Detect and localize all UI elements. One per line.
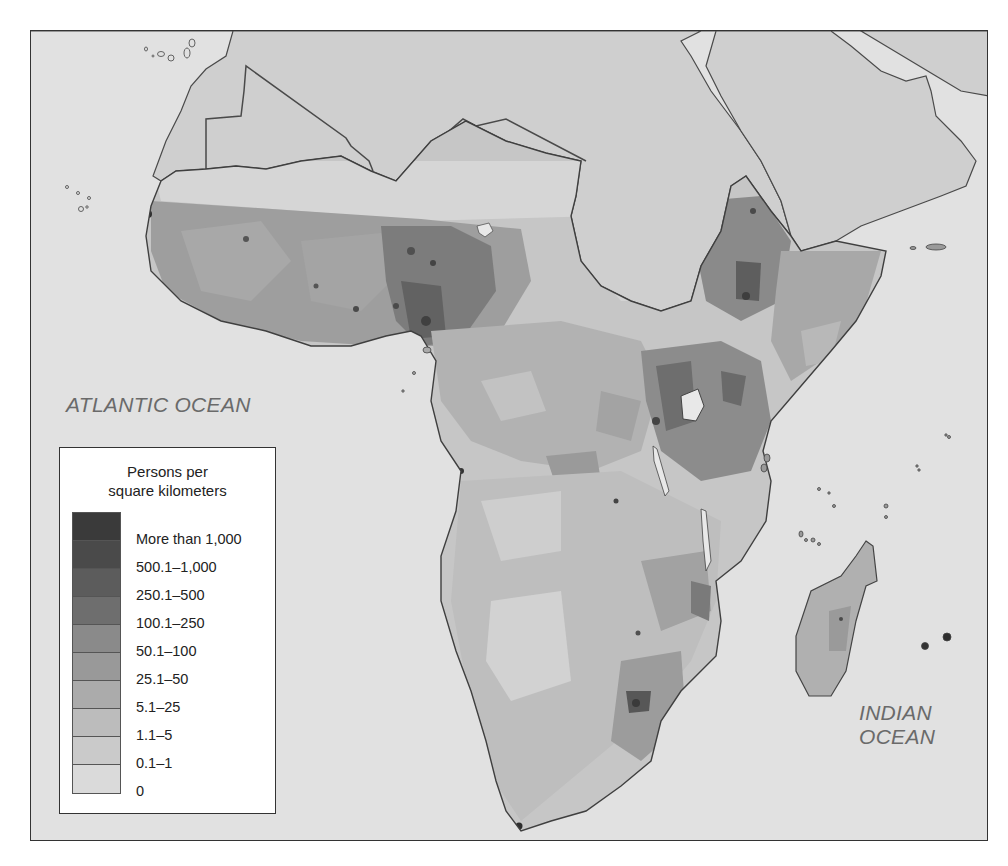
legend-swatch <box>73 569 120 597</box>
legend-swatches <box>72 512 121 794</box>
legend-swatch <box>73 681 120 709</box>
legend-swatch <box>73 653 120 681</box>
legend-swatch <box>73 597 120 625</box>
legend-label: 500.1–1,000 <box>136 553 242 581</box>
legend-label: 100.1–250 <box>136 609 242 637</box>
legend-label: More than 1,000 <box>136 525 242 553</box>
legend-swatch <box>73 765 120 793</box>
legend-title: Persons per square kilometers <box>60 462 275 500</box>
legend-label: 250.1–500 <box>136 581 242 609</box>
legend-label: 25.1–50 <box>136 665 242 693</box>
legend-labels: More than 1,000 500.1–1,000 250.1–500 10… <box>136 525 242 805</box>
legend-swatch <box>73 737 120 765</box>
legend-title-line2: square kilometers <box>60 481 275 500</box>
atlantic-ocean-label: ATLANTIC OCEAN <box>66 393 251 417</box>
legend: Persons per square kilometers More than … <box>59 447 276 814</box>
map-frame: ATLANTIC OCEAN INDIAN OCEAN Persons per … <box>30 30 988 841</box>
legend-swatch <box>73 709 120 737</box>
legend-swatch <box>73 513 120 541</box>
legend-title-line1: Persons per <box>60 462 275 481</box>
legend-label: 0 <box>136 777 242 805</box>
legend-label: 0.1–1 <box>136 749 242 777</box>
legend-swatch <box>73 541 120 569</box>
indian-ocean-label-line1: INDIAN <box>859 701 935 725</box>
legend-label: 5.1–25 <box>136 693 242 721</box>
antananarivo-dot <box>839 617 843 621</box>
legend-swatch <box>73 625 120 653</box>
legend-label: 1.1–5 <box>136 721 242 749</box>
indian-ocean-label: INDIAN OCEAN <box>859 701 935 749</box>
legend-label: 50.1–100 <box>136 637 242 665</box>
indian-ocean-label-line2: OCEAN <box>859 725 935 749</box>
